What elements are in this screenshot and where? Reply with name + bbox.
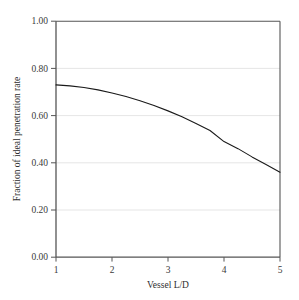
chart-figure: 1.00 0.80 0.60 0.40 0.20 0.00 1 2 3 4 5 … <box>0 0 299 300</box>
y-tick-label-0.80: 0.80 <box>31 64 48 74</box>
y-tick-label-0.20: 0.20 <box>31 205 48 215</box>
x-tick-label-2: 2 <box>110 265 115 275</box>
y-tick-label-1.00: 1.00 <box>31 16 48 26</box>
x-tick-label-4: 4 <box>222 265 227 275</box>
x-tick-label-1: 1 <box>54 265 59 275</box>
x-axis-title: Vessel L/D <box>147 280 189 290</box>
y-axis-title: Fraction of ideal penetration rate <box>12 77 22 202</box>
line-chart: 1.00 0.80 0.60 0.40 0.20 0.00 1 2 3 4 5 … <box>0 0 299 300</box>
x-tick-label-3: 3 <box>166 265 171 275</box>
y-tick-label-0.40: 0.40 <box>31 158 48 168</box>
y-tick-label-0.00: 0.00 <box>31 252 48 262</box>
x-tick-label-5: 5 <box>278 265 283 275</box>
y-tick-label-0.60: 0.60 <box>31 111 48 121</box>
